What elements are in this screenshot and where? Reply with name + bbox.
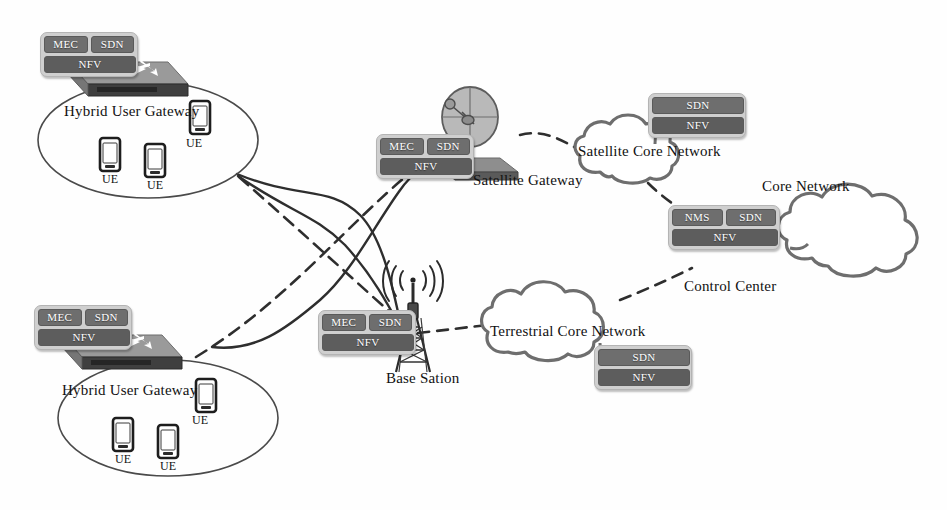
label-control-center: Control Center bbox=[684, 278, 776, 295]
function-stack-terrestrial-core[interactable]: SDN NFV bbox=[594, 345, 692, 390]
function-cell-sdn: SDN bbox=[726, 209, 777, 226]
function-cell-nfv: NFV bbox=[44, 56, 136, 73]
function-cell-mec: MEC bbox=[38, 309, 82, 326]
label-ue: UE bbox=[186, 136, 202, 151]
function-cell-nfv: NFV bbox=[652, 117, 744, 134]
label-ue: UE bbox=[102, 172, 118, 187]
label-ue: UE bbox=[115, 452, 131, 467]
label-terrestrial-core-network: Terrestrial Core Network bbox=[490, 323, 645, 340]
node-shape-layer bbox=[0, 0, 947, 510]
ue-phone-icon bbox=[113, 418, 133, 451]
function-stack-satellite-core[interactable]: SDN NFV bbox=[648, 93, 746, 138]
function-stack-satellite-gateway[interactable]: MEC SDN NFV bbox=[376, 134, 474, 179]
label-base-station: Base Sation bbox=[386, 370, 459, 387]
function-stack-hybrid-gateway-top[interactable]: MEC SDN NFV bbox=[40, 32, 138, 77]
function-cell-nfv: NFV bbox=[672, 229, 778, 246]
ue-phone-icon bbox=[158, 425, 178, 458]
function-cell-sdn: SDN bbox=[427, 138, 471, 155]
label-core-network: Core Network bbox=[762, 178, 850, 195]
function-stack-hybrid-gateway-bottom[interactable]: MEC SDN NFV bbox=[34, 305, 132, 350]
network-diagram-canvas: MEC SDN NFV MEC SDN NFV MEC SDN NFV bbox=[0, 0, 947, 510]
label-hybrid-user-gateway-top: Hybrid User Gateway bbox=[64, 103, 199, 120]
function-cell-nfv: NFV bbox=[38, 329, 130, 346]
label-ue: UE bbox=[160, 459, 176, 474]
label-ue: UE bbox=[147, 178, 163, 193]
label-hybrid-user-gateway-bottom: Hybrid User Gateway bbox=[62, 382, 197, 399]
function-cell-sdn: SDN bbox=[85, 309, 129, 326]
function-cell-nfv: NFV bbox=[322, 334, 414, 351]
cloud-icon-terrestrial-core bbox=[482, 282, 604, 361]
ue-phone-icon bbox=[196, 379, 216, 412]
ue-phone-icon bbox=[100, 138, 120, 171]
function-cell-mec: MEC bbox=[322, 314, 366, 331]
function-cell-sdn: SDN bbox=[598, 349, 690, 366]
function-cell-nfv: NFV bbox=[380, 158, 472, 175]
function-stack-base-station[interactable]: MEC SDN NFV bbox=[318, 310, 416, 355]
function-cell-mec: MEC bbox=[44, 36, 88, 53]
label-satellite-gateway: Satellite Gateway bbox=[473, 172, 583, 189]
ue-phone-icon bbox=[145, 144, 165, 177]
label-satellite-core-network: Satellite Core Network bbox=[578, 143, 721, 160]
function-cell-nms: NMS bbox=[672, 209, 723, 226]
function-cell-mec: MEC bbox=[380, 138, 424, 155]
label-ue: UE bbox=[192, 413, 208, 428]
function-stack-control-center[interactable]: NMS SDN NFV bbox=[668, 205, 780, 250]
function-cell-sdn: SDN bbox=[369, 314, 413, 331]
cloud-icon-core-network bbox=[778, 184, 917, 276]
function-cell-sdn: SDN bbox=[91, 36, 135, 53]
function-cell-nfv: NFV bbox=[598, 369, 690, 386]
function-cell-sdn: SDN bbox=[652, 97, 744, 114]
